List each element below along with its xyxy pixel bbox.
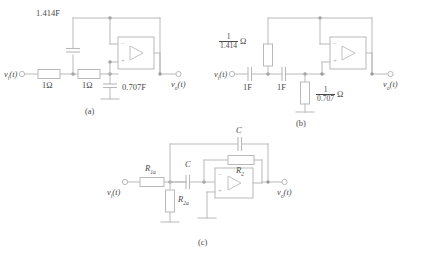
output-label-b: vo(t)	[383, 80, 398, 91]
figure-root: 1.414F 1Ω 1Ω 0.707F vi(t) vo(t) − + (a) …	[0, 0, 425, 257]
output-terminal-c[interactable]	[282, 179, 287, 184]
node-c-out	[266, 180, 269, 183]
opamp-a-minus-sign: −	[121, 41, 125, 48]
resistor-feedback-b-body	[264, 44, 273, 66]
opamp-b-plus-sign: +	[333, 58, 337, 65]
caption-b: (b)	[296, 118, 306, 128]
opamp-c-plus-sign: +	[218, 188, 222, 195]
opamp-b-minus-sign: −	[333, 41, 337, 48]
capacitor-b2-label: 1F	[277, 83, 286, 92]
capacitor-a-top-label: 1.414F	[36, 9, 60, 18]
resistor-c-input-label: R1a	[145, 164, 156, 175]
capacitor-a-ground-label: 0.707F	[122, 83, 146, 92]
resistor-shunt-c-body	[166, 190, 175, 212]
circuit-canvas	[0, 0, 425, 257]
opamp-c-minus-sign: −	[218, 172, 222, 179]
resistor-series-1-body	[38, 70, 60, 79]
input-terminal-a[interactable]	[19, 71, 24, 76]
resistor-c-feedback-label: R2	[236, 166, 244, 177]
input-label-a: vi(t)	[4, 70, 17, 81]
resistor-c-shunt-label: R2a	[178, 195, 189, 206]
capacitor-c-top-label: C	[236, 126, 242, 135]
resistor-shunt-b-body	[301, 82, 310, 104]
node-b-out	[370, 72, 373, 75]
node-b-plus	[320, 72, 323, 75]
capacitor-c-series-label: C	[185, 160, 191, 169]
input-terminal-b[interactable]	[229, 71, 234, 76]
output-label-c: vo(t)	[277, 188, 292, 199]
input-label-c: vi(t)	[107, 188, 120, 199]
resistor-input-c-body	[140, 178, 164, 187]
output-terminal-a[interactable]	[176, 71, 181, 76]
capacitor-b1-label: 1F	[243, 83, 252, 92]
input-terminal-c[interactable]	[122, 179, 127, 184]
resistor-series-2-body	[78, 70, 100, 79]
resistor-b-feedback-label: 1 1.414 Ω	[219, 33, 246, 50]
resistor-a2-label: 1Ω	[82, 81, 93, 90]
circuit-b	[229, 16, 393, 112]
resistor-feedback-c-body	[228, 156, 254, 165]
resistor-b-shunt-label: 1 0.707 Ω	[316, 86, 343, 103]
opamp-a-plus-sign: +	[121, 58, 125, 65]
circuit-c	[122, 137, 287, 222]
node-a-out	[158, 72, 161, 75]
output-label-a: vo(t)	[171, 80, 186, 91]
caption-c: (c)	[198, 237, 207, 247]
caption-a: (a)	[85, 106, 94, 116]
output-terminal-b[interactable]	[388, 71, 393, 76]
input-label-b: vi(t)	[214, 70, 227, 81]
resistor-a1-label: 1Ω	[42, 81, 53, 90]
